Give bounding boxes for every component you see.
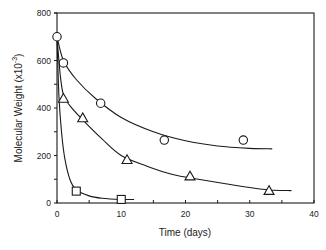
y-tick-label: 0	[46, 198, 51, 208]
y-tick-label: 600	[37, 56, 51, 66]
y-tick-labels: 0200400600800	[37, 8, 51, 208]
circle-marker	[160, 136, 168, 144]
x-tick-label: 40	[309, 209, 319, 219]
plot-frame	[57, 13, 314, 203]
circle-marker	[96, 99, 104, 107]
x-tick-label: 30	[245, 209, 255, 219]
y-tick-label: 200	[37, 151, 51, 161]
triangle-marker	[58, 94, 68, 103]
data-markers	[53, 33, 274, 204]
circle-marker	[239, 136, 247, 144]
x-tick-labels: 010203040	[55, 209, 319, 219]
x-axis-title: Time (days)	[159, 227, 211, 238]
circles-fit-curve	[57, 37, 272, 149]
x-tick-label: 10	[117, 209, 127, 219]
y-axis-title-suffix: )	[13, 54, 24, 57]
square-marker	[72, 187, 80, 195]
triangle-marker	[185, 171, 195, 180]
molecular-weight-chart: 010203040 0200400600800 Time (days) Mole…	[0, 0, 326, 250]
x-tick-label: 20	[181, 209, 191, 219]
square-marker	[117, 195, 125, 203]
triangle-marker	[122, 155, 132, 164]
circle-marker	[53, 33, 61, 41]
y-tick-label: 400	[37, 103, 51, 113]
axis-ticks	[54, 13, 314, 203]
circle-marker	[59, 59, 67, 67]
triangle-marker	[78, 113, 88, 122]
x-tick-label: 0	[55, 209, 60, 219]
fit-curves	[57, 37, 292, 200]
y-axis-title-main: Molecular Weight (x10	[13, 63, 24, 163]
y-axis-title: Molecular Weight (x10-3)	[11, 54, 24, 163]
y-tick-label: 800	[37, 8, 51, 18]
plot-border	[57, 13, 314, 203]
triangles-fit-curve	[57, 37, 292, 191]
